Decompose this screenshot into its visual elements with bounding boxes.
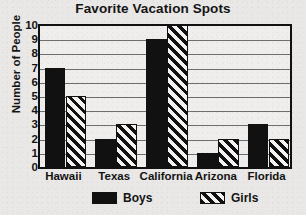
y-tick-label: 4 <box>8 105 38 115</box>
x-tick-label-california: California <box>140 170 191 182</box>
bar-texas-boys <box>95 139 116 167</box>
y-tick-label: 10 <box>8 20 38 30</box>
legend-swatch-girls-icon <box>200 192 225 204</box>
bar-hawaii-girls <box>66 96 87 167</box>
bar-florida-boys <box>248 124 269 167</box>
chart-legend: Boys Girls <box>0 191 306 211</box>
y-tick-label: 3 <box>8 119 38 129</box>
bar-texas-girls <box>116 124 137 167</box>
plot-area <box>38 24 292 169</box>
bar-california-boys <box>146 39 167 167</box>
y-tick-label: 9 <box>8 34 38 44</box>
y-tick-label: 0 <box>8 162 38 172</box>
bar-arizona-boys <box>197 153 218 167</box>
bar-hawaii-boys <box>45 68 66 167</box>
x-tick-label-florida: Florida <box>241 170 292 182</box>
y-tick-label: 8 <box>8 48 38 58</box>
legend-label-girls: Girls <box>231 191 258 205</box>
y-tick-label: 2 <box>8 134 38 144</box>
y-tick-label: 5 <box>8 91 38 101</box>
bar-chart-figure: Favorite Vacation Spots Number of People… <box>0 0 306 215</box>
x-tick-label-arizona: Arizona <box>190 170 241 182</box>
y-tick-label: 6 <box>8 77 38 87</box>
bar-california-girls <box>167 25 188 167</box>
legend-swatch-boys-icon <box>92 192 117 204</box>
y-tick-label: 1 <box>8 148 38 158</box>
legend-label-boys: Boys <box>123 191 152 205</box>
legend-item-boys: Boys <box>92 191 152 205</box>
x-axis-tick-labels: HawaiiTexasCaliforniaArizonaFlorida <box>38 170 292 186</box>
bar-florida-girls <box>269 139 290 167</box>
chart-title: Favorite Vacation Spots <box>0 1 306 16</box>
legend-item-girls: Girls <box>200 191 258 205</box>
x-tick-label-hawaii: Hawaii <box>38 170 89 182</box>
bar-arizona-girls <box>218 139 239 167</box>
y-tick-label: 7 <box>8 63 38 73</box>
x-tick-label-texas: Texas <box>89 170 140 182</box>
